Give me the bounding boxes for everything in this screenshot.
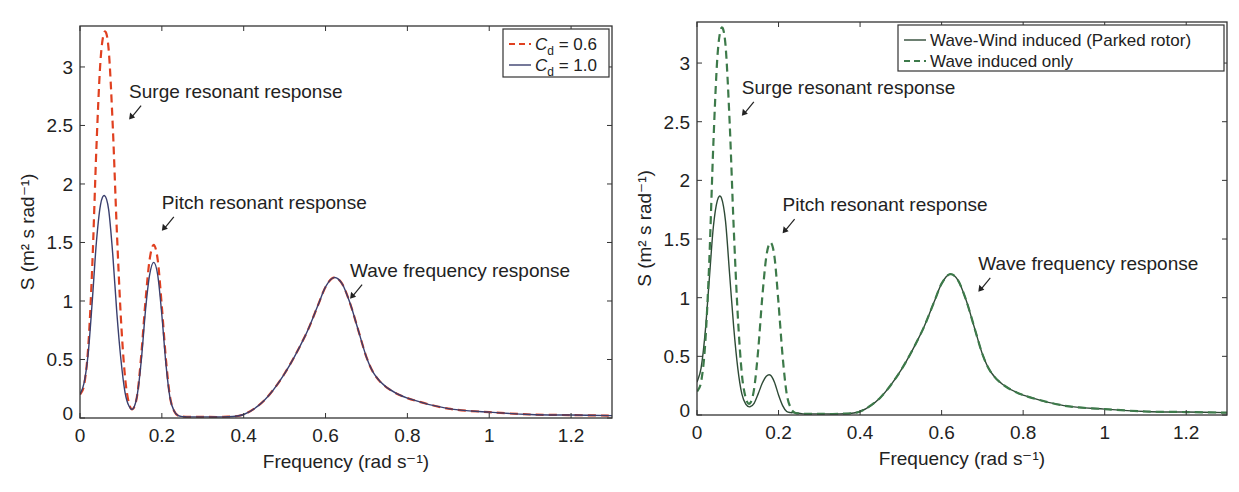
arrow-icon [786, 219, 795, 230]
legend-label-2: Wave induced only [930, 52, 1074, 71]
x-tick-label: 0.4 [230, 425, 257, 446]
x-tick-label: 0.8 [1010, 422, 1036, 443]
annotation-label: Surge resonant response [129, 81, 342, 102]
annotation-label: Surge resonant response [742, 77, 955, 98]
x-tick-label: 0.6 [928, 422, 954, 443]
x-tick-label: 0.6 [312, 425, 338, 446]
series-line-1 [697, 196, 1227, 414]
legend-label-1: Wave-Wind induced (Parked rotor) [930, 31, 1191, 50]
y-tick-label: 0.5 [47, 349, 73, 370]
annotation-label: Wave frequency response [978, 253, 1198, 274]
x-tick-label: 0 [692, 422, 703, 443]
y-tick-label: 2.5 [47, 115, 73, 136]
chart-panel-1: 00.20.40.60.811.200.511.522.53Frequency … [17, 26, 612, 472]
y-tick-label: 1 [62, 291, 73, 312]
y-tick-label: 0 [679, 400, 690, 421]
x-axis-label: Frequency (rad s⁻¹) [263, 451, 429, 472]
y-tick-label: 2 [679, 170, 690, 191]
y-tick-label: 2.5 [664, 112, 690, 133]
x-tick-label: 0 [75, 425, 86, 446]
chart-panel-2: 00.20.40.60.811.200.511.522.53Frequency … [634, 22, 1227, 469]
x-tick-label: 1 [484, 425, 495, 446]
y-tick-label: 1.5 [47, 232, 73, 253]
legend: Cd = 0.6Cd = 1.0 [503, 29, 609, 79]
y-tick-label: 1.5 [664, 229, 690, 250]
arrow-icon [353, 285, 362, 296]
arrow-icon [132, 106, 141, 117]
arrow-icon [981, 278, 990, 289]
y-tick-label: 2 [62, 174, 73, 195]
annotation-label: Pitch resonant response [162, 192, 367, 213]
x-tick-label: 0.4 [847, 422, 874, 443]
y-tick-label: 0.5 [664, 346, 690, 367]
y-tick-label: 3 [62, 57, 73, 78]
y-tick-label: 1 [679, 288, 690, 309]
annotation-label: Wave frequency response [350, 260, 570, 281]
y-tick-label: 3 [679, 53, 690, 74]
x-axis-label: Frequency (rad s⁻¹) [879, 448, 1045, 469]
x-tick-label: 0.2 [149, 425, 175, 446]
arrow-icon [745, 102, 754, 113]
x-tick-label: 1.2 [558, 425, 584, 446]
y-axis-label: S (m² s rad⁻¹) [634, 170, 655, 287]
annotation-label: Pitch resonant response [783, 194, 988, 215]
x-tick-label: 0.8 [394, 425, 420, 446]
x-tick-label: 1.2 [1173, 422, 1199, 443]
figure-canvas: 00.20.40.60.811.200.511.522.53Frequency … [0, 0, 1239, 492]
arrow-icon [165, 217, 174, 228]
y-tick-label: 0 [62, 403, 73, 424]
x-tick-label: 1 [1099, 422, 1110, 443]
y-axis-label: S (m² s rad⁻¹) [17, 174, 38, 291]
legend: Wave-Wind induced (Parked rotor)Wave ind… [898, 25, 1224, 71]
series-line-2 [80, 196, 612, 417]
x-tick-label: 0.2 [765, 422, 791, 443]
